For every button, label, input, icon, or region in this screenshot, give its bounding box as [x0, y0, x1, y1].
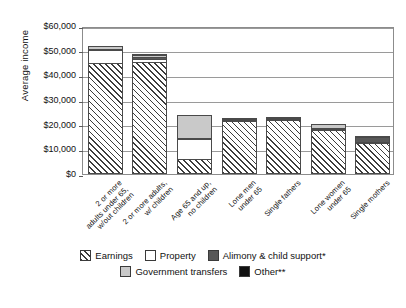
bar-segment-govt: [177, 115, 212, 139]
y-axis-tick-label: $60,000: [16, 21, 76, 31]
legend-swatch-alimony-icon: [208, 250, 219, 261]
legend-item-alimony: Alimony & child support*: [208, 250, 326, 261]
y-axis-tick-mark: [79, 176, 83, 177]
y-axis-tick-mark: [79, 151, 83, 152]
bar-segment-earnings: [266, 120, 301, 174]
legend-label: Earnings: [95, 250, 133, 261]
gridline: [83, 102, 393, 103]
bar-segment-earnings: [222, 121, 257, 174]
y-axis-tick-label: $20,000: [16, 120, 76, 130]
y-axis-tick-mark: [79, 102, 83, 103]
chart-legend: EarningsPropertyAlimony & child support*…: [0, 250, 406, 282]
gridline: [83, 28, 393, 29]
legend-item-govt: Government transfers: [120, 266, 227, 277]
legend-row-2: Government transfersOther**: [0, 266, 406, 277]
bar-segment-earnings: [311, 130, 346, 174]
gridline: [83, 52, 393, 53]
legend-swatch-property-icon: [145, 250, 156, 261]
legend-label: Property: [160, 250, 196, 261]
bar-4: [222, 119, 257, 174]
x-axis-label-7: Single mothers: [244, 179, 391, 308]
y-axis-tick-label: $40,000: [16, 70, 76, 80]
legend-swatch-govt-icon: [120, 266, 131, 277]
bar-segment-earnings: [132, 62, 167, 174]
legend-swatch-other-icon: [239, 266, 250, 277]
legend-label: Government transfers: [135, 266, 227, 277]
income-composition-chart: Average income $0$10,000$20,000$30,000$4…: [0, 0, 406, 308]
bar-segment-earnings: [355, 143, 390, 174]
legend-row-1: EarningsPropertyAlimony & child support*: [0, 250, 406, 261]
bar-1: [88, 47, 123, 174]
bar-3: [177, 116, 212, 174]
plot-area: [82, 27, 394, 175]
bar-segment-property: [177, 139, 212, 160]
legend-label: Other**: [254, 266, 285, 277]
y-axis-tick-label: $10,000: [16, 144, 76, 154]
y-axis-tick-label: $0: [16, 169, 76, 179]
bar-segment-property: [88, 50, 123, 63]
y-axis-tick-mark: [79, 77, 83, 78]
bar-2: [132, 55, 167, 174]
legend-item-property: Property: [145, 250, 196, 261]
y-axis-tick-mark: [79, 52, 83, 53]
y-axis-tick-mark: [79, 126, 83, 127]
y-axis-tick-mark: [79, 28, 83, 29]
bar-7: [355, 137, 390, 174]
x-axis-label-line: Single mothers: [244, 179, 391, 308]
bar-6: [311, 125, 346, 174]
legend-item-earnings: Earnings: [80, 250, 133, 261]
bar-segment-earnings: [88, 63, 123, 174]
legend-swatch-earnings-icon: [80, 250, 91, 261]
y-axis-tick-label: $50,000: [16, 46, 76, 56]
bar-5: [266, 118, 301, 174]
legend-label: Alimony & child support*: [223, 250, 326, 261]
legend-item-other: Other**: [239, 266, 285, 277]
bar-segment-earnings: [177, 159, 212, 174]
y-axis-tick-label: $30,000: [16, 95, 76, 105]
gridline: [83, 77, 393, 78]
